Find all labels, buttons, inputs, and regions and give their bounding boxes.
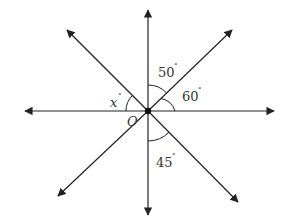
label-60: 60 [182,89,199,104]
degree-45: ° [172,152,176,160]
degree-x: ° [118,92,122,100]
arc-45 [148,132,169,141]
arc-x [126,95,132,111]
label-x: x [110,95,118,110]
ray-upper-left [67,30,148,111]
arc-50 [148,85,167,93]
degree-60: ° [198,86,202,94]
arc-60 [161,99,175,112]
degree-50: ° [174,62,178,70]
label-center-o: O [127,114,138,129]
center-point [145,108,151,114]
diagram-canvas: 50 ° 60 ° x ° O 45 ° [0,0,284,223]
label-50: 50 [158,65,175,80]
angle-diagram: 50 ° 60 ° x ° O 45 ° [0,0,284,223]
label-45: 45 [156,155,173,170]
